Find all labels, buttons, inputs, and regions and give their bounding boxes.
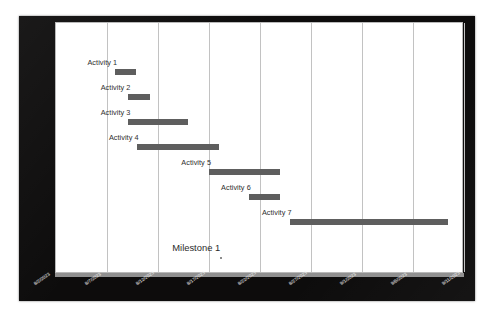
gridline [464, 23, 465, 272]
gantt-bar[interactable] [209, 169, 280, 175]
gantt-bar-label: Activity 4 [109, 133, 139, 142]
gridline [413, 23, 414, 272]
gantt-bar[interactable] [115, 69, 135, 75]
milestone-label: Milestone 1 [172, 242, 220, 253]
gantt-bar-label: Activity 1 [87, 58, 117, 67]
gantt-bar[interactable] [128, 119, 187, 125]
gantt-bar[interactable] [128, 94, 149, 100]
gantt-bar-label: Activity 5 [181, 158, 211, 167]
gantt-chart-screenshot: Activity 1Activity 2Activity 3Activity 4… [0, 0, 494, 324]
gridline [362, 23, 363, 272]
gantt-bar-label: Activity 2 [101, 83, 131, 92]
gantt-plot-area: Activity 1Activity 2Activity 3Activity 4… [55, 22, 463, 273]
gantt-bar[interactable] [137, 144, 220, 150]
gantt-bar[interactable] [249, 194, 281, 200]
gantt-bar-label: Activity 7 [262, 208, 292, 217]
gantt-bar-label: Activity 6 [221, 183, 251, 192]
gantt-bar[interactable] [290, 219, 448, 225]
gridline [311, 23, 312, 272]
gridline [260, 23, 261, 272]
milestone-marker[interactable] [220, 257, 222, 259]
gantt-bar-label: Activity 3 [101, 108, 131, 117]
